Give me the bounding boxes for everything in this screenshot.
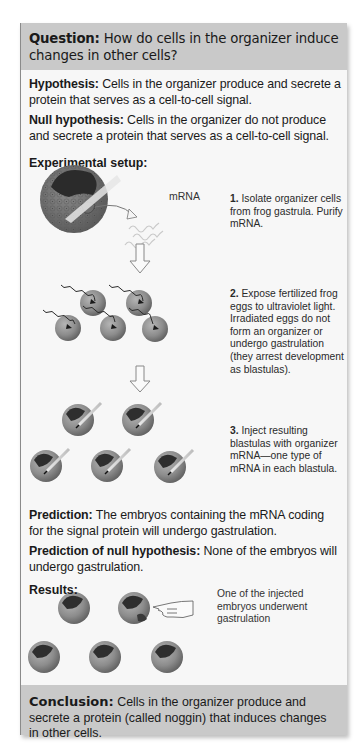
prediction-null: Prediction of null hypothesis: None of t… [29,544,341,575]
injected-blastulas-icon [30,403,193,483]
down-arrow-icon [130,366,150,392]
pointing-hand-icon [153,601,193,618]
step-1-text: Isolate organizer cells from frog gastru… [230,193,343,229]
down-arrow-icon [130,244,150,273]
step-2: 2. Expose fertilized frog eggs to ultrav… [230,288,345,376]
conclusion-label: Conclusion: [29,694,114,709]
step-2-number: 2. [230,288,239,299]
prediction: Prediction: The embryos containing the m… [29,508,341,539]
results-note: One of the injected embryos underwent ga… [217,588,337,626]
result-embryos-icon [28,592,183,673]
step-1: 1. Isolate organizer cells from frog gas… [230,193,345,231]
gastrula-icon [40,165,163,248]
step-2-text: Expose fertilized frog eggs to ultraviol… [230,288,344,375]
gastrulated-embryo [118,592,150,624]
step-3-number: 3. [230,425,239,436]
irradiated-eggs-icon [43,285,168,342]
prediction-label: Prediction: [29,508,93,522]
step-3-text: Inject resulting blastulas with organize… [230,425,338,474]
results-label: Results: [29,583,78,597]
prediction-null-label: Prediction of null hypothesis: [29,544,200,558]
step-1-number: 1. [230,193,239,204]
step-3: 3. Inject resulting blastulas with organ… [230,425,345,475]
conclusion-footer: Conclusion: Cells in the organizer produ… [21,685,347,735]
experiment-figure: Question: How do cells in the organizer … [20,23,347,735]
experiment-illustration [21,23,347,735]
mrna-label: mRNA [169,190,200,202]
